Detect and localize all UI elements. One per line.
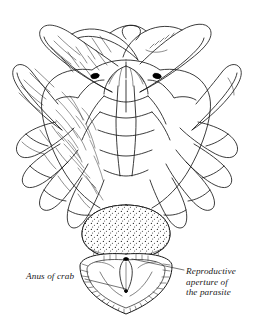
left-cheliped [40, 25, 141, 92]
label-reproductive-aperture: Reproductive aperture of the parasite [186, 266, 250, 298]
left-outer-leg [13, 65, 62, 130]
right-eye [152, 72, 161, 79]
left-eye [90, 72, 99, 79]
crab-abdomen [80, 254, 172, 315]
left-shading [56, 92, 103, 200]
label-repro-line2: aperture of [186, 277, 250, 288]
reproductive-aperture-point [123, 257, 128, 260]
sternum [56, 80, 196, 176]
left-walking-legs [16, 122, 104, 228]
anus-point [125, 290, 128, 293]
label-anus-of-crab: Anus of crab [26, 271, 74, 282]
right-walking-legs [150, 122, 238, 228]
label-repro-line3: the parasite [186, 287, 250, 298]
right-outer-leg [192, 65, 241, 130]
label-repro-line1: Reproductive [186, 266, 250, 277]
